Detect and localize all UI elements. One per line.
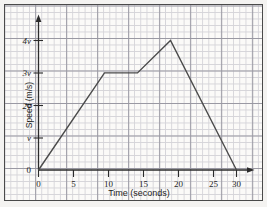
x-tick-label-30: 30 — [232, 180, 241, 189]
y-tick-label-0: 0 — [19, 166, 31, 175]
y-axis-title: Speed (m/s) — [24, 82, 34, 128]
y-tick-label-4v: 4v — [19, 36, 31, 45]
x-axis-title: Time (seconds) — [108, 188, 170, 198]
x-tick-label-25: 25 — [209, 180, 218, 189]
speed-time-graph-figure: 4v 3v 2v v 0 0 5 10 15 20 25 30 Time (se… — [0, 0, 267, 207]
x-tick-label-0: 0 — [36, 180, 41, 189]
x-tick-label-5: 5 — [71, 180, 76, 189]
x-tick-label-20: 20 — [174, 180, 183, 189]
x-axis-arrow-icon — [247, 167, 255, 173]
y-tick-label-3v: 3v — [19, 69, 31, 78]
speed-time-data-line — [39, 41, 237, 171]
y-axis-arrow-icon — [36, 15, 42, 23]
y-tick-label-v: v — [19, 134, 31, 143]
plot-area — [0, 0, 267, 207]
